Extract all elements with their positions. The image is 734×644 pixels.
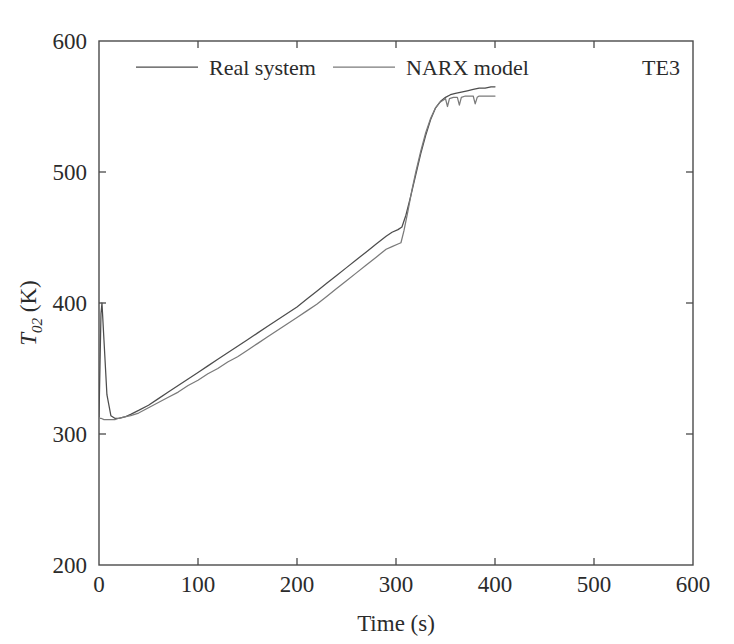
x-tick-label-0: 0 xyxy=(93,572,105,597)
y-tick-label-300: 300 xyxy=(53,422,88,447)
x-tick-label-600: 600 xyxy=(676,572,711,597)
line-chart: 0100200300400500600200300400500600Real s… xyxy=(0,0,734,644)
x-tick-label-400: 400 xyxy=(478,572,513,597)
y-tick-label-600: 600 xyxy=(53,29,88,54)
x-tick-label-500: 500 xyxy=(577,572,612,597)
plot-annotation: TE3 xyxy=(642,55,680,80)
y-tick-label-200: 200 xyxy=(53,553,88,578)
series-group xyxy=(99,87,495,420)
y-axis-title-units: (K) xyxy=(16,280,41,318)
x-tick-label-200: 200 xyxy=(280,572,315,597)
y-tick-label-400: 400 xyxy=(53,291,88,316)
legend-label-1: NARX model xyxy=(406,55,529,80)
y-tick-label-500: 500 xyxy=(53,160,88,185)
x-tick-label-100: 100 xyxy=(181,572,216,597)
series-line-real-system xyxy=(99,87,495,418)
x-tick-label-300: 300 xyxy=(379,572,414,597)
plot-frame xyxy=(99,41,693,565)
y-axis-title-subscript: 02 xyxy=(29,317,45,333)
x-axis-title: Time (s) xyxy=(357,611,435,636)
y-axis-title: T02 (K) xyxy=(16,280,45,345)
legend-label-0: Real system xyxy=(209,55,316,80)
chart-figure: 0100200300400500600200300400500600Real s… xyxy=(0,0,734,644)
series-line-narx-model xyxy=(99,96,495,420)
